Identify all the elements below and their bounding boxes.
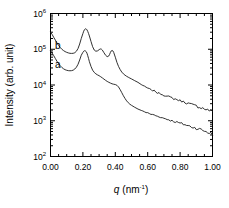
x-axis-title: q(nm-1) <box>114 184 148 195</box>
y-tick-exponent-0: 2 <box>43 151 47 157</box>
y-tick-base-4: 10 <box>33 9 43 19</box>
y-tick-base-0: 10 <box>33 152 43 162</box>
x-axis-title-symbol: q <box>114 184 120 195</box>
y-tick-label-3: 105 <box>33 44 46 55</box>
y-tick-exponent-1: 3 <box>43 115 47 121</box>
curve-series-b <box>51 29 213 112</box>
y-tick-label-2: 104 <box>33 80 46 91</box>
y-tick-label-1: 103 <box>33 115 46 126</box>
series-label-a: a <box>55 59 61 70</box>
axis-frame <box>51 14 213 157</box>
data-curves <box>51 29 213 135</box>
x-tick-label-2: 0.40 <box>107 162 124 172</box>
y-tick-base-2: 10 <box>33 80 43 90</box>
xray-scattering-plot: 0.000.200.400.600.801.00 102103104105106… <box>0 0 229 208</box>
plot-frame <box>51 14 213 157</box>
x-axis-tick-labels: 0.000.200.400.600.801.00 <box>42 162 221 172</box>
x-axis-minor-ticks <box>59 14 205 157</box>
x-axis-major-ticks <box>51 14 213 157</box>
x-axis-title-close: ) <box>145 184 148 195</box>
y-axis-major-ticks <box>51 14 213 157</box>
series-inline-labels: ba <box>55 40 61 70</box>
y-tick-label-4: 106 <box>33 8 46 19</box>
y-tick-label-0: 102 <box>33 151 46 162</box>
figure-container: 0.000.200.400.600.801.00 102103104105106… <box>0 0 229 208</box>
curve-series-a <box>51 51 213 135</box>
x-axis-title-unit: (nm <box>122 184 139 195</box>
y-axis-tick-labels: 102103104105106 <box>33 8 46 162</box>
x-tick-label-0: 0.00 <box>42 162 59 172</box>
y-tick-exponent-4: 6 <box>43 8 47 14</box>
svg-text:q(nm-1): q(nm-1) <box>114 184 148 195</box>
y-tick-exponent-2: 4 <box>43 80 47 86</box>
y-tick-base-3: 10 <box>33 44 43 54</box>
y-tick-base-1: 10 <box>33 116 43 126</box>
x-tick-label-3: 0.60 <box>139 162 156 172</box>
x-tick-label-5: 1.00 <box>204 162 221 172</box>
y-axis-minor-ticks <box>51 15 213 146</box>
y-axis-title: Intensity (arb. unit) <box>4 44 15 127</box>
y-tick-exponent-3: 5 <box>43 44 47 50</box>
series-label-b: b <box>55 40 61 51</box>
x-tick-label-4: 0.80 <box>172 162 189 172</box>
x-tick-label-1: 0.20 <box>75 162 92 172</box>
